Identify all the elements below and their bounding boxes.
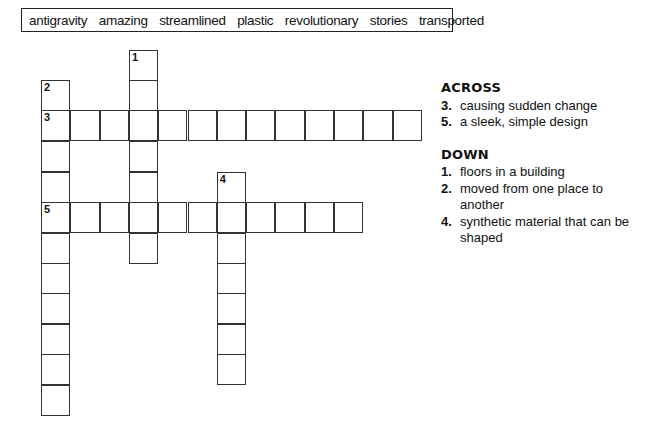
clue-text: a sleek, simple design bbox=[460, 114, 646, 131]
grid-cell[interactable] bbox=[41, 141, 70, 172]
clue-item: 2. moved from one place to another bbox=[441, 181, 646, 214]
grid-cell[interactable]: 4 bbox=[217, 172, 246, 203]
grid-cell[interactable] bbox=[217, 293, 246, 324]
grid-cell[interactable] bbox=[41, 354, 70, 385]
clue-number-label: 4 bbox=[220, 174, 226, 185]
grid-cell[interactable] bbox=[41, 324, 70, 355]
grid-cell[interactable] bbox=[217, 233, 246, 264]
grid-cell[interactable] bbox=[158, 110, 187, 141]
grid-cell[interactable]: 2 bbox=[41, 80, 70, 111]
grid-cell[interactable]: 3 bbox=[41, 110, 70, 141]
clue-text: causing sudden change bbox=[460, 98, 646, 115]
grid-cell[interactable] bbox=[217, 354, 246, 385]
grid-cell[interactable] bbox=[129, 233, 158, 264]
clue-item: 1. floors in a building bbox=[441, 164, 646, 181]
grid-cell[interactable] bbox=[188, 202, 217, 233]
grid-cell[interactable] bbox=[41, 293, 70, 324]
grid-cell[interactable] bbox=[217, 324, 246, 355]
grid-cell[interactable] bbox=[305, 202, 334, 233]
grid-cell[interactable] bbox=[100, 110, 129, 141]
clue-number-label: 2 bbox=[44, 82, 50, 93]
across-heading: ACROSS bbox=[441, 80, 646, 97]
grid-cell[interactable] bbox=[158, 202, 187, 233]
grid-cell[interactable] bbox=[70, 110, 99, 141]
grid-cell[interactable] bbox=[41, 172, 70, 203]
grid-cell[interactable] bbox=[393, 110, 422, 141]
clue-number: 2. bbox=[441, 181, 460, 214]
clue-text: synthetic material that can be shaped bbox=[460, 214, 646, 247]
grid-cell[interactable] bbox=[217, 202, 246, 233]
clue-number-label: 3 bbox=[44, 112, 50, 123]
grid-cell[interactable] bbox=[275, 202, 304, 233]
grid-cell[interactable] bbox=[41, 233, 70, 264]
grid-cell[interactable] bbox=[129, 202, 158, 233]
clue-text: moved from one place to another bbox=[460, 181, 646, 214]
clues-down: DOWN 1. floors in a building 2. moved fr… bbox=[441, 147, 646, 247]
grid-cell[interactable] bbox=[246, 202, 275, 233]
grid-cell[interactable] bbox=[275, 110, 304, 141]
grid-cell[interactable] bbox=[129, 80, 158, 111]
grid-cell[interactable] bbox=[70, 202, 99, 233]
clue-text: floors in a building bbox=[460, 164, 646, 181]
grid-cell[interactable] bbox=[363, 110, 392, 141]
grid-cell[interactable] bbox=[188, 110, 217, 141]
clue-number: 1. bbox=[441, 164, 460, 181]
grid-cell[interactable] bbox=[305, 110, 334, 141]
clue-item: 5. a sleek, simple design bbox=[441, 114, 646, 131]
clue-number-label: 5 bbox=[44, 204, 50, 215]
grid-cell[interactable] bbox=[129, 172, 158, 203]
grid-cell[interactable] bbox=[246, 110, 275, 141]
clues-across: ACROSS 3. causing sudden change 5. a sle… bbox=[441, 80, 646, 131]
grid-cell[interactable] bbox=[129, 141, 158, 172]
grid-cell[interactable] bbox=[334, 110, 363, 141]
clue-number-label: 1 bbox=[132, 52, 138, 63]
clue-item: 3. causing sudden change bbox=[441, 98, 646, 115]
grid-cell[interactable] bbox=[41, 385, 70, 416]
clue-number: 4. bbox=[441, 214, 460, 247]
grid-cell[interactable] bbox=[100, 202, 129, 233]
clue-item: 4. synthetic material that can be shaped bbox=[441, 214, 646, 247]
down-heading: DOWN bbox=[441, 147, 646, 164]
clues-panel: ACROSS 3. causing sudden change 5. a sle… bbox=[441, 80, 646, 263]
grid-cell[interactable] bbox=[41, 263, 70, 294]
grid-cell[interactable] bbox=[217, 110, 246, 141]
grid-cell[interactable] bbox=[129, 110, 158, 141]
grid-cell[interactable] bbox=[334, 202, 363, 233]
grid-cell[interactable]: 5 bbox=[41, 202, 70, 233]
grid-cell[interactable] bbox=[217, 263, 246, 294]
grid-cell[interactable]: 1 bbox=[129, 50, 158, 81]
clue-number: 3. bbox=[441, 98, 460, 115]
clue-number: 5. bbox=[441, 114, 460, 131]
